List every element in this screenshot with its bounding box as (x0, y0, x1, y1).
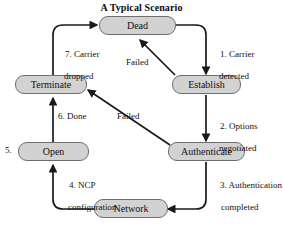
edge-label-line2: completed (211, 202, 282, 213)
edge-label-line1: 2. Options (220, 121, 258, 131)
node-dead[interactable]: Dead (99, 16, 176, 35)
edge-dead-to-establish (176, 25, 206, 74)
edge-label-line2: detected (211, 71, 254, 82)
edge-label-failed-authenticate: Failed (117, 111, 140, 122)
edge-label-line1: 4. NCP (69, 180, 96, 190)
edge-label-options-negotiated: 2. Options negotiated (211, 110, 258, 176)
edge-label-line1: 1. Carrier (220, 49, 254, 59)
diagram-canvas: A Typical Scenario Dead (0, 0, 283, 229)
edge-label-line2: configuration (60, 202, 117, 213)
edge-label-ncp-configuration: 4. NCP configuration (60, 169, 117, 229)
edge-label-line1: 3. Authentication (220, 180, 282, 190)
edge-label-done: 6. Done (58, 111, 87, 122)
edge-label-authentication-completed: 3. Authentication completed (211, 169, 282, 229)
edge-authenticate-to-network (168, 162, 206, 209)
edge-label-carrier-detected: 1. Carrier detected (211, 38, 254, 104)
edge-label-line2: negotiated (211, 143, 258, 154)
edge-label-line1: 7. Carrier (65, 49, 99, 59)
edge-label-carrier-dropped: 7. Carrier dropped (56, 38, 99, 104)
edge-label-line2: dropped (56, 71, 99, 82)
marker-label-five: 5. (5, 145, 12, 156)
node-open[interactable]: Open (18, 142, 89, 161)
edge-label-failed-establish: Failed (126, 57, 149, 68)
